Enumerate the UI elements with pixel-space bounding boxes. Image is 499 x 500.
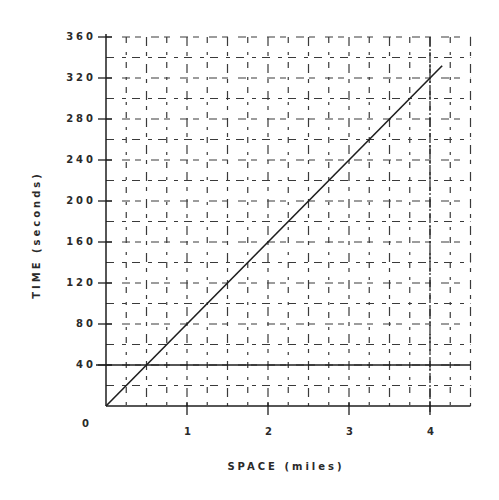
x-tick-label: 4	[427, 426, 437, 437]
y-tick-label: 240	[66, 154, 96, 165]
y-tick-label: 360	[66, 31, 96, 42]
series-line	[106, 66, 442, 406]
x-tick-label: 2	[265, 426, 275, 437]
y-tick-label: 40	[76, 359, 96, 370]
y-tick-label: 280	[66, 113, 96, 124]
series	[106, 66, 442, 406]
y-tick-label: 160	[66, 236, 96, 247]
y-tick-label: 320	[66, 72, 96, 83]
y-axis-title: TIME (seconds)	[31, 171, 42, 299]
y-tick-label: 80	[76, 318, 96, 329]
y-tick-label: 120	[66, 277, 96, 288]
x-tick-label: 3	[346, 426, 356, 437]
y-tick-label: 200	[66, 195, 96, 206]
chart: 04080120160200240280320360 1234 SPACE (m…	[0, 0, 499, 500]
y-tick-label: 0	[82, 418, 92, 429]
x-axis-title: SPACE (miles)	[227, 461, 344, 472]
x-tick-labels: 1234	[184, 426, 437, 437]
y-tick-labels: 04080120160200240280320360	[66, 31, 96, 429]
x-tick-label: 1	[184, 426, 194, 437]
